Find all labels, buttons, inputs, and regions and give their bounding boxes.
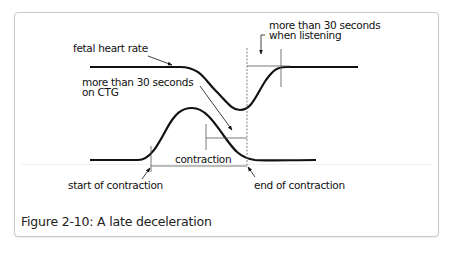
end-contraction-arrow <box>248 167 255 177</box>
fetal-heart-rate-curve <box>90 67 358 110</box>
fetal-heart-rate-label: fetal heart rate <box>73 42 148 54</box>
figure-caption: Figure 2-10: A late deceleration <box>21 214 212 229</box>
start-of-contraction-label: start of contraction <box>68 179 163 191</box>
ctg-label-line2: on CTG <box>82 86 119 98</box>
start-contraction-arrow <box>142 168 150 179</box>
fetal-heart-rate-arrow <box>148 56 172 65</box>
end-of-contraction-label: end of contraction <box>254 179 345 191</box>
contraction-label: contraction <box>175 153 231 165</box>
listening-label-line2: when listening <box>269 29 341 41</box>
